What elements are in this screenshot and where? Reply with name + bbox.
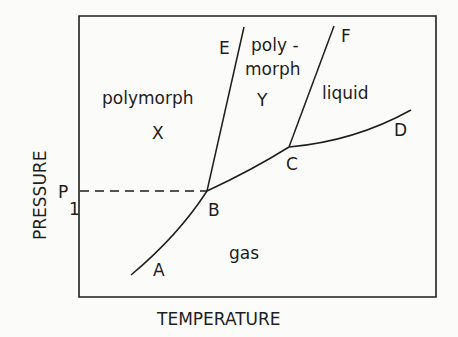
region-polymorph-y-letter: Y [256, 90, 268, 110]
region-polymorph-x-letter: X [152, 123, 164, 143]
y-axis-label: PRESSURE [30, 151, 50, 240]
x-axis-label: TEMPERATURE [156, 309, 281, 329]
point-f-label: F [341, 26, 351, 46]
curve-a-b [131, 191, 207, 275]
curve-b-c [207, 147, 289, 191]
point-c-label: C [286, 154, 298, 174]
phase-diagram: polymorph X poly - morph Y liquid gas A … [0, 0, 458, 337]
point-d-label: D [394, 120, 407, 140]
point-e-label: E [219, 38, 230, 58]
p1-marker-subscript: 1 [69, 199, 80, 219]
region-polymorph-y-line1: poly - [251, 35, 299, 55]
curve-c-d [289, 110, 411, 147]
p1-marker-label: P [58, 182, 68, 202]
point-a-label: A [153, 260, 165, 280]
region-polymorph-y-line2: morph [245, 59, 301, 79]
region-liquid-label: liquid [322, 83, 369, 103]
region-gas-label: gas [229, 243, 259, 263]
region-polymorph-x-label: polymorph [102, 88, 194, 108]
point-b-label: B [208, 200, 220, 220]
